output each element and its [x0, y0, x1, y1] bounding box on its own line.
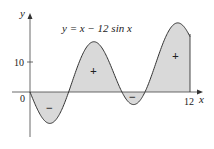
y-axis-arrow-icon: [28, 13, 33, 19]
equation-label: y = x − 12 sin x: [61, 22, 132, 34]
y-axis-label: y: [19, 7, 25, 19]
x-tick-label-12: 12: [184, 96, 194, 107]
shaded-area: [30, 23, 190, 124]
region-sign-plus-2: +: [90, 64, 97, 78]
y-tick-label-10: 10: [14, 57, 24, 68]
region-sign-minus-3: −: [129, 90, 136, 104]
function-plot: y x 0 12 10 y = x − 12 sin x − + − +: [0, 0, 214, 149]
origin-label: 0: [20, 93, 25, 104]
region-sign-plus-4: +: [172, 49, 179, 63]
x-axis-label: x: [198, 93, 204, 105]
region-sign-minus-1: −: [46, 101, 53, 115]
